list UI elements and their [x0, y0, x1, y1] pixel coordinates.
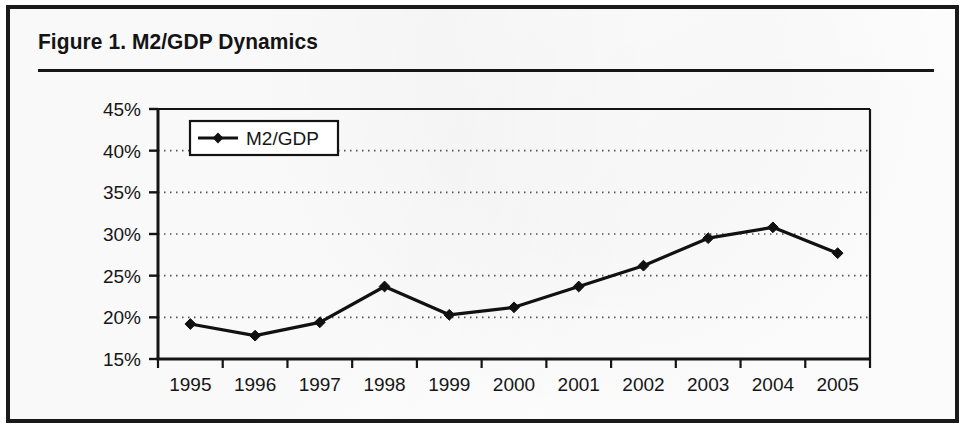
data-point-marker: [509, 302, 520, 313]
y-axis-tick-label: 30%: [103, 224, 141, 245]
x-axis-tick-label: 2002: [622, 374, 664, 395]
y-axis-tick-label: 35%: [103, 182, 141, 203]
x-axis-labels: 1995199619971998199920002001200220032004…: [169, 374, 859, 395]
x-axis-tick-label: 1997: [299, 374, 341, 395]
line-chart: 15%20%25%30%35%40%45% 199519961997199819…: [10, 9, 963, 427]
figure-container: Figure 1. M2/GDP Dynamics 15%20%25%30%35…: [6, 5, 959, 423]
data-point-marker: [250, 330, 261, 341]
chart-svg: 15%20%25%30%35%40%45% 199519961997199819…: [10, 9, 963, 427]
data-point-marker: [444, 309, 455, 320]
x-axis-tick-label: 1996: [234, 374, 276, 395]
x-axis-tick-label: 1998: [363, 374, 405, 395]
y-axis-tick-label: 40%: [103, 141, 141, 162]
x-axis-tick-label: 2005: [816, 374, 858, 395]
y-axis-tick-label: 45%: [103, 99, 141, 120]
chart-legend: M2/GDP: [190, 121, 338, 155]
x-axis-tick-label: 2003: [687, 374, 729, 395]
data-point-marker: [185, 319, 196, 330]
y-axis-labels: 15%20%25%30%35%40%45%: [103, 99, 141, 370]
series-m2-gdp-line: [190, 227, 837, 335]
y-axis-tick-label: 25%: [103, 266, 141, 287]
gridlines: [158, 151, 870, 318]
data-point-marker: [832, 248, 843, 259]
legend-entry-label: M2/GDP: [246, 128, 319, 149]
data-point-marker: [768, 222, 779, 233]
x-axis-tick-label: 2001: [558, 374, 600, 395]
x-axis-tick-label: 2004: [752, 374, 795, 395]
data-point-marker: [638, 260, 649, 271]
series-m2-gdp-markers: [185, 222, 843, 341]
y-axis-tick-label: 15%: [103, 349, 141, 370]
data-point-marker: [573, 281, 584, 292]
x-axis-tick-label: 1995: [169, 374, 211, 395]
y-axis-tick-label: 20%: [103, 307, 141, 328]
x-axis-tick-label: 2000: [493, 374, 535, 395]
x-axis-tick-label: 1999: [428, 374, 470, 395]
